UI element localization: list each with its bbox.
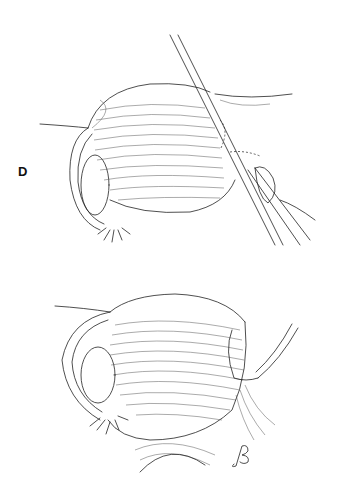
- artist-signature-icon: [228, 440, 258, 470]
- panel-d-illustration: D: [0, 0, 342, 250]
- panel-f-illustration: F: [0, 250, 342, 493]
- uterus-instruments-drawing: [0, 0, 342, 250]
- uterus-repaired-drawing: [0, 250, 342, 493]
- panel-label-d: D: [18, 164, 27, 179]
